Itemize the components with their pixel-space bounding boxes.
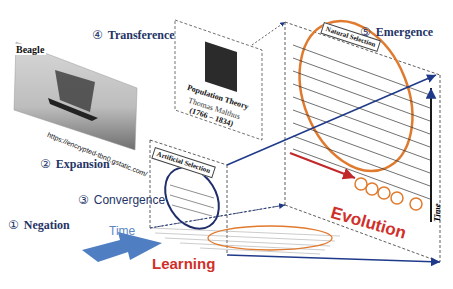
time-axis-label: Time (432, 203, 442, 222)
evolution-lines (293, 45, 430, 199)
floor-grid (150, 228, 340, 254)
stage-negation: ①Negation (8, 218, 70, 233)
species-circles (355, 178, 422, 210)
stage-emergence: ⑤Emergence (360, 25, 433, 40)
time-label: Time (109, 224, 135, 238)
diagram: Beagle https://encrypted-tbn0.gstatic.co… (0, 0, 453, 289)
beagle-image (14, 42, 137, 150)
learning-label: Learning (152, 255, 215, 272)
stage-convergence: ③Convergence (78, 193, 165, 207)
stage-expansion: ②Expansion (40, 157, 110, 172)
stage-transference: ④Transference (92, 28, 175, 43)
learning-axis (227, 255, 440, 262)
beagle-title: Beagle (14, 44, 46, 55)
